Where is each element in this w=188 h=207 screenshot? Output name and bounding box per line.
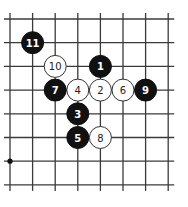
stone-white-move-4: 4 (67, 79, 89, 101)
stone-black-move-7: 7 (44, 79, 66, 101)
go-board: 1234567891011 (0, 0, 188, 207)
star-points (7, 159, 12, 164)
stone-black-move-3: 3 (67, 103, 89, 125)
move-number: 8 (97, 133, 103, 144)
move-number: 5 (74, 133, 81, 144)
move-number: 3 (74, 109, 81, 120)
stone-black-move-1: 1 (89, 55, 111, 77)
move-number: 11 (26, 38, 40, 49)
move-number: 1 (97, 61, 104, 72)
stone-white-move-8: 8 (89, 127, 111, 149)
move-number: 9 (142, 85, 149, 96)
stone-black-move-5: 5 (67, 127, 89, 149)
stone-black-move-11: 11 (22, 32, 44, 54)
stone-black-move-9: 9 (135, 79, 157, 101)
move-number: 7 (52, 85, 59, 96)
move-number: 4 (75, 85, 81, 96)
move-number: 6 (120, 85, 126, 96)
stone-white-move-10: 10 (44, 55, 66, 77)
star-point (7, 159, 12, 164)
move-number: 2 (97, 85, 103, 96)
move-number: 10 (49, 61, 62, 72)
stone-white-move-2: 2 (89, 79, 111, 101)
stone-white-move-6: 6 (112, 79, 134, 101)
